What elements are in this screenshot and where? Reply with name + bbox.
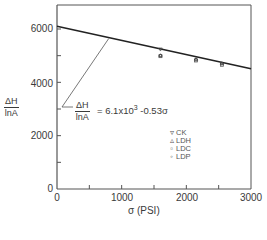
circle-marker-icon: ◦	[167, 153, 176, 161]
legend: ▿CK ▵LDH ▫LDC ◦LDP	[167, 129, 191, 161]
equation-rhs-base: = 6.1x10	[97, 105, 134, 116]
legend-label: LDP	[176, 152, 191, 161]
y-axis-title-numerator: ΔH	[4, 97, 19, 108]
x-axis-title: σ (PSI)	[128, 205, 160, 216]
y-tick-label-4000: 4000	[13, 79, 53, 89]
equation-denominator: lnA	[75, 112, 90, 122]
y-axis-title-denominator: lnA	[4, 108, 19, 118]
y-axis-title: ΔH lnA	[4, 97, 19, 118]
equation-text: = 6.1x103 -0.53σ	[97, 104, 168, 116]
equation-arrow	[62, 39, 109, 107]
legend-item-ldp: ◦LDP	[167, 153, 191, 161]
y-tick-label-2000: 2000	[13, 131, 53, 141]
x-tick-label-0: 0	[37, 193, 77, 203]
equation-rhs-tail: -0.53σ	[138, 105, 168, 116]
y-tick-label-6000: 6000	[13, 24, 53, 34]
equation-fraction: ΔH lnA	[75, 101, 90, 122]
x-tick-label-3000: 3000	[231, 193, 267, 203]
x-tick-label-2000: 2000	[167, 193, 207, 203]
x-tick-label-1000: 1000	[102, 193, 142, 203]
equation-numerator: ΔH	[75, 101, 90, 112]
